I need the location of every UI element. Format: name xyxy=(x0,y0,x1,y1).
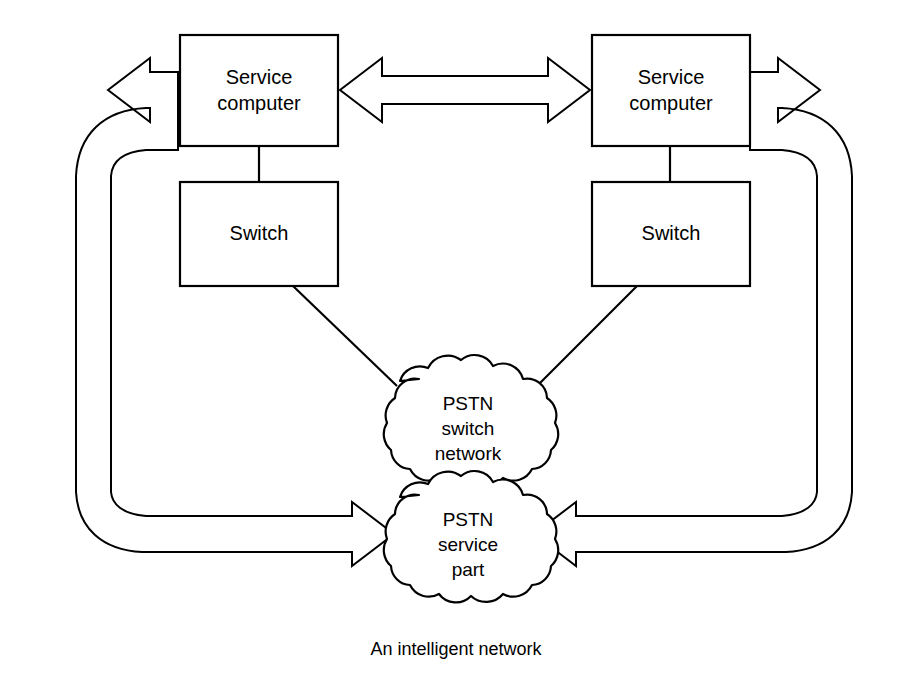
switch-left-node: Switch xyxy=(180,182,338,286)
pstn-service-part-cloud: PSTN service part xyxy=(384,471,558,602)
service-computer-right-node: Service computer xyxy=(592,35,750,146)
service-computer-right-box xyxy=(592,35,750,146)
pstn-service-part-line3: part xyxy=(452,559,485,580)
pstn-service-part-line1: PSTN xyxy=(443,509,494,530)
switch-right-label: Switch xyxy=(642,222,701,244)
service-computer-interlink-arrow xyxy=(340,58,590,122)
pstn-switch-network-line3: network xyxy=(435,443,502,464)
connector-switch-right-to-pstn-switch xyxy=(537,286,637,386)
service-computer-left-line1: Service xyxy=(226,66,293,88)
pstn-switch-network-line2: switch xyxy=(442,418,495,439)
intelligent-network-diagram: PSTN switch network PSTN service part Se… xyxy=(0,0,912,686)
pstn-switch-network-line1: PSTN xyxy=(443,393,494,414)
connector-switch-left-to-pstn-switch xyxy=(293,286,397,386)
diagram-canvas: PSTN switch network PSTN service part Se… xyxy=(0,0,912,686)
pstn-service-part-line2: service xyxy=(438,534,498,555)
switch-right-node: Switch xyxy=(592,182,750,286)
service-computer-left-node: Service computer xyxy=(180,35,338,146)
pstn-switch-network-cloud: PSTN switch network xyxy=(384,355,558,486)
figure-caption: An intelligent network xyxy=(370,639,542,659)
service-computer-right-line2: computer xyxy=(629,92,713,114)
service-computer-left-box xyxy=(180,35,338,146)
service-computer-left-line2: computer xyxy=(217,92,301,114)
switch-left-label: Switch xyxy=(230,222,289,244)
service-computer-right-line1: Service xyxy=(638,66,705,88)
